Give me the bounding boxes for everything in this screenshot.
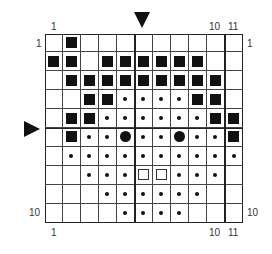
chart-cell <box>45 34 63 53</box>
chart-cell <box>45 90 63 109</box>
chart-cell <box>63 109 81 128</box>
chart-cell <box>117 185 135 204</box>
dot-icon <box>195 173 199 177</box>
dot-icon <box>213 154 217 158</box>
chart-cell <box>225 204 243 223</box>
chart-cell <box>99 185 117 204</box>
dot-icon <box>159 192 163 196</box>
chart-cell <box>117 52 135 71</box>
filled-square-icon <box>102 94 113 105</box>
dot-icon <box>105 192 109 196</box>
dot-icon <box>159 154 163 158</box>
chart-cell <box>81 185 99 204</box>
chart-cell <box>99 90 117 109</box>
chart-cell <box>99 147 117 166</box>
filled-square-icon <box>174 75 185 86</box>
center-row-arrow-icon <box>24 121 40 137</box>
dot-icon <box>105 116 109 120</box>
chart-cell <box>81 34 99 53</box>
chart-cell <box>135 109 153 128</box>
dot-icon <box>177 116 181 120</box>
chart-cell <box>171 166 189 185</box>
left-label-row-10: 10 <box>29 208 40 218</box>
chart-cell <box>153 128 171 147</box>
chart-cell <box>81 166 99 185</box>
chart-cell <box>135 52 153 71</box>
hollow-square-icon <box>138 169 149 180</box>
hollow-square-icon <box>156 169 167 180</box>
dot-icon <box>177 211 181 215</box>
chart-cell <box>45 128 63 147</box>
chart-cell <box>117 204 135 223</box>
dot-icon <box>159 97 163 101</box>
top-label-col-10: 10 <box>209 22 220 32</box>
chart-cell <box>207 128 225 147</box>
chart-cell <box>63 166 81 185</box>
chart-cell <box>153 109 171 128</box>
chart-cell <box>135 204 153 223</box>
dot-icon <box>159 211 163 215</box>
dot-icon <box>87 154 91 158</box>
chart-cell <box>189 147 207 166</box>
top-label-col-1: 1 <box>51 22 57 32</box>
filled-square-icon <box>84 113 95 124</box>
left-label-row-1: 1 <box>36 39 42 49</box>
chart-cell <box>81 52 99 71</box>
dot-icon <box>195 154 199 158</box>
chart-cell <box>171 34 189 53</box>
chart-cell <box>171 71 189 90</box>
chart-cell <box>207 204 225 223</box>
chart-cell <box>153 90 171 109</box>
dot-icon <box>177 97 181 101</box>
large-dot-icon <box>174 131 185 142</box>
chart-cell <box>171 109 189 128</box>
dot-icon <box>123 173 127 177</box>
chart-cell <box>99 34 117 53</box>
chart-cell <box>171 204 189 223</box>
chart-cell <box>63 204 81 223</box>
filled-square-icon <box>192 56 203 67</box>
chart-cell <box>99 109 117 128</box>
chart-cell <box>189 166 207 185</box>
dot-icon <box>159 135 163 139</box>
chart-cell <box>207 185 225 204</box>
chart-cell <box>45 166 63 185</box>
chart-cell <box>81 71 99 90</box>
chart-cell <box>225 90 243 109</box>
chart-cell <box>99 52 117 71</box>
chart-cell <box>153 147 171 166</box>
chart-cell <box>171 90 189 109</box>
filled-square-icon <box>210 113 221 124</box>
dot-icon <box>141 211 145 215</box>
chart-cell <box>189 90 207 109</box>
chart-cell <box>207 147 225 166</box>
filled-square-icon <box>66 75 77 86</box>
filled-square-icon <box>66 131 77 142</box>
filled-square-icon <box>84 75 95 86</box>
filled-square-icon <box>192 75 203 86</box>
chart-cell <box>45 109 63 128</box>
right-label-row-10: 10 <box>247 208 258 218</box>
chart-cell <box>225 34 243 53</box>
chart-cell <box>99 71 117 90</box>
bottom-label-col-10: 10 <box>209 228 220 238</box>
dot-icon <box>195 116 199 120</box>
chart-cell <box>81 204 99 223</box>
chart-cell <box>63 52 81 71</box>
chart-cell <box>153 185 171 204</box>
chart-cell <box>45 52 63 71</box>
dot-icon <box>213 173 217 177</box>
chart-cell <box>189 185 207 204</box>
filled-square-icon <box>138 75 149 86</box>
chart-cell <box>81 128 99 147</box>
dot-icon <box>141 135 145 139</box>
dot-icon <box>195 135 199 139</box>
filled-square-icon <box>210 75 221 86</box>
dot-icon <box>232 154 236 158</box>
chart-cell <box>153 34 171 53</box>
dot-icon <box>195 192 199 196</box>
filled-square-icon <box>120 75 131 86</box>
chart-cell <box>207 90 225 109</box>
dot-icon <box>213 135 217 139</box>
chart-cell <box>207 71 225 90</box>
